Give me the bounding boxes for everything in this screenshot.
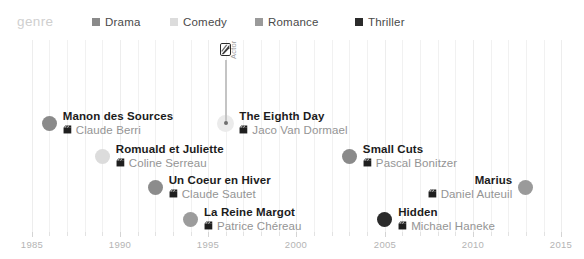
director-name: Patrice Chéreau (217, 220, 302, 232)
film-entry[interactable]: La Reine MargotPatrice Chéreau (183, 206, 302, 232)
genre-dot-marker[interactable] (148, 180, 163, 195)
axis-tick-1987 (67, 232, 68, 236)
director-row: Claude Sautet (169, 188, 271, 200)
film-entry[interactable]: HiddenMichael Haneke (377, 206, 495, 232)
gridline-2011 (491, 40, 492, 232)
gridline-1989 (102, 40, 103, 232)
axis-tick-2015 (561, 232, 562, 237)
gridline-2015 (561, 40, 562, 232)
genre-dot-marker[interactable] (342, 149, 357, 164)
gridline-2004 (367, 40, 368, 232)
director-row: Jaco Van Dormael (239, 124, 347, 136)
director-name: Michael Haneke (411, 220, 495, 232)
director-name: Claude Berri (76, 124, 141, 136)
legend-item-label: Thriller (368, 16, 405, 28)
gridline-1997 (243, 40, 244, 232)
film-entry-text: The Eighth DayJaco Van Dormael (239, 110, 347, 136)
gridline-2012 (508, 40, 509, 232)
director-row: Patrice Chéreau (204, 220, 302, 232)
gridline-2008 (438, 40, 439, 232)
director-name: Jaco Van Dormael (252, 124, 347, 136)
axis-tick-2003 (349, 232, 350, 236)
gridline-2000 (296, 40, 297, 232)
axis-tick-2013 (526, 232, 527, 236)
film-clapper-icon (363, 158, 372, 167)
axis-tick-2008 (438, 232, 439, 236)
gridline-1992 (155, 40, 156, 232)
genre-dot-marker[interactable] (183, 212, 198, 227)
axis-tick-label: 2015 (550, 239, 572, 250)
gridline-1991 (138, 40, 139, 232)
genre-dot-marker[interactable] (42, 116, 57, 131)
gridline-1988 (85, 40, 86, 232)
axis-tick-2000 (296, 232, 297, 237)
film-entry[interactable]: MariusDaniel Auteuil (428, 174, 534, 200)
film-clapper-icon (204, 221, 213, 230)
film-entry-text: La Reine MargotPatrice Chéreau (204, 206, 302, 232)
axis-tick-2002 (332, 232, 333, 236)
x-axis: 1985199019952000200520102015 (0, 232, 584, 259)
axis-tick-1988 (85, 232, 86, 236)
axis-tick-1992 (155, 232, 156, 236)
film-entry[interactable]: Un Coeur en HiverClaude Sautet (148, 174, 271, 200)
axis-tick-label: 1985 (21, 239, 43, 250)
plot-area: Manon des SourcesClaude BerriThe Eighth … (0, 40, 584, 232)
legend-item-comedy[interactable]: Comedy (170, 15, 227, 29)
annotation-connector-line (225, 60, 227, 123)
gridline-2014 (544, 40, 545, 232)
axis-tick-2001 (314, 232, 315, 236)
director-row: Claude Berri (63, 124, 173, 136)
film-entry[interactable]: Manon des SourcesClaude Berri (42, 110, 173, 136)
genre-dot-marker[interactable] (95, 149, 110, 164)
film-title: Romuald et Juliette (116, 143, 224, 155)
film-entry-text: Manon des SourcesClaude Berri (63, 110, 173, 136)
axis-tick-label: 2005 (374, 239, 396, 250)
gridline-1985 (32, 40, 33, 232)
film-clapper-icon (116, 158, 125, 167)
film-entry[interactable]: Small CutsPascal Bonitzer (342, 143, 457, 169)
axis-tick-label: 2010 (462, 239, 484, 250)
gridline-2003 (349, 40, 350, 232)
axis-tick-2012 (508, 232, 509, 236)
genre-legend: genre DramaComedyRomanceThriller (0, 0, 584, 40)
legend-item-drama[interactable]: Drama (92, 15, 141, 29)
director-row: Daniel Auteuil (428, 188, 513, 200)
film-entry-text: Romuald et JulietteColine Serreau (116, 143, 224, 169)
axis-tick-1986 (49, 232, 50, 236)
director-name: Daniel Auteuil (441, 188, 513, 200)
axis-tick-1994 (191, 232, 192, 236)
legend-item-romance[interactable]: Romance (255, 15, 319, 29)
axis-tick-1989 (102, 232, 103, 236)
gridline-1998 (261, 40, 262, 232)
axis-tick-2007 (420, 232, 421, 236)
legend-item-label: Drama (105, 16, 141, 28)
film-clapper-icon (63, 125, 72, 134)
axis-tick-1990 (120, 232, 121, 237)
actor-portrait-icon[interactable] (220, 42, 231, 55)
axis-tick-2010 (473, 232, 474, 237)
axis-tick-2014 (544, 232, 545, 236)
film-entry-text: MariusDaniel Auteuil (428, 174, 513, 200)
genre-dot-marker[interactable] (377, 212, 392, 227)
film-entry[interactable]: Romuald et JulietteColine Serreau (95, 143, 224, 169)
legend-item-thriller[interactable]: Thriller (355, 15, 405, 29)
genre-dot-marker[interactable] (518, 180, 533, 195)
axis-tick-label: 2000 (285, 239, 307, 250)
film-clapper-icon (239, 125, 248, 134)
director-row: Pascal Bonitzer (363, 157, 457, 169)
gridline-2013 (526, 40, 527, 232)
film-clapper-icon (398, 221, 407, 230)
legend-item-label: Comedy (183, 16, 227, 28)
axis-tick-2005 (385, 232, 386, 237)
square-swatch (170, 18, 178, 26)
film-entry[interactable]: The Eighth DayJaco Van Dormael (218, 110, 347, 136)
film-entry-text: Small CutsPascal Bonitzer (363, 143, 457, 169)
film-clapper-icon (169, 189, 178, 198)
axis-tick-1985 (32, 232, 33, 237)
axis-tick-2009 (455, 232, 456, 236)
film-title: Small Cuts (363, 143, 457, 155)
film-entry-text: Un Coeur en HiverClaude Sautet (169, 174, 271, 200)
axis-tick-1995 (208, 232, 209, 237)
gridline-2007 (420, 40, 421, 232)
gridline-2002 (332, 40, 333, 232)
